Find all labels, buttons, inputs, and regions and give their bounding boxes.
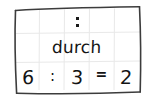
colon-dot-bottom [76, 24, 79, 27]
flashcard: durch 6 : 3 = 2 [0, 0, 157, 101]
symbol-row [14, 8, 140, 33]
card-content: durch 6 : 3 = 2 [14, 8, 140, 92]
equation-row: 6 : 3 = 2 [14, 62, 140, 92]
equation-quotient: 2 [113, 68, 138, 87]
division-colon-icon [76, 7, 79, 34]
equation-division-operator: : [40, 69, 64, 84]
word-row: durch [14, 33, 140, 62]
colon-dot-top [76, 17, 79, 20]
equation-equals-operator: = [89, 67, 113, 81]
equation-divisor: 3 [64, 68, 89, 87]
equation-dividend: 6 [16, 68, 41, 87]
operation-word: durch [52, 39, 102, 56]
